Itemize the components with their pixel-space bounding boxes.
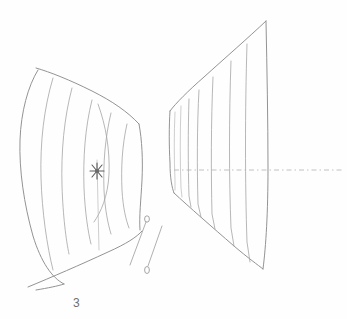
star-marker[interactable] <box>90 163 104 179</box>
right-shape-rib-2 <box>180 106 182 197</box>
figure-number-label: 3 <box>73 296 80 310</box>
sketch-drawing <box>0 0 347 319</box>
right-shape-trailing-edge <box>263 21 268 269</box>
star-marker-core <box>95 169 99 173</box>
right-shape-rib-5 <box>211 77 215 229</box>
pin-left-head-icon <box>145 216 150 222</box>
pin-left-shaft <box>130 222 146 265</box>
left-shape-inner-contour <box>94 104 109 222</box>
left-shape-rib-1 <box>41 78 53 270</box>
left-fan-shape <box>20 68 143 290</box>
right-shape-rib-6 <box>230 61 235 246</box>
right-shape-rib-1 <box>174 112 175 190</box>
right-shape-rib-7 <box>246 44 251 262</box>
left-shape-top-edge <box>36 68 139 124</box>
left-shape-lower-left-edge <box>36 284 64 290</box>
sketch-canvas <box>0 0 347 319</box>
left-shape-bottom-edge <box>28 231 142 287</box>
left-shape-outer-arc <box>20 70 64 284</box>
left-shape-rib-2 <box>62 88 72 254</box>
pin-pair <box>130 216 162 274</box>
right-shape-top-edge <box>170 21 266 111</box>
pin-right-shaft <box>148 226 162 266</box>
right-shape-rib-3 <box>188 99 191 207</box>
right-shape-rib-4 <box>197 90 201 217</box>
right-shape-nose-edge <box>169 111 174 193</box>
right-fan-shape <box>169 21 344 269</box>
left-shape-rib-5 <box>122 124 129 228</box>
left-shape-rib-3 <box>84 100 92 244</box>
pin-right-head-icon <box>145 267 150 274</box>
left-shape-right-edge <box>139 124 142 230</box>
left-shape-rib-4 <box>104 113 111 234</box>
